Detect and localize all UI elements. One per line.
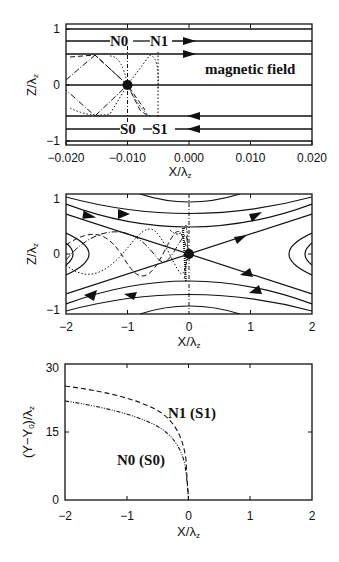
label-s1: S1 bbox=[152, 121, 168, 137]
x-tick-label: −1 bbox=[120, 509, 134, 523]
field-lines bbox=[66, 29, 312, 141]
label-s0: S0 bbox=[120, 121, 136, 137]
y-axis-label: Z/λz bbox=[24, 243, 40, 265]
x-tick-label: 0.010 bbox=[235, 151, 265, 165]
x-tick-labels: −0.020 −0.010 0.000 0.010 0.020 bbox=[47, 151, 327, 165]
x-tick-label: −0.020 bbox=[47, 151, 84, 165]
x-tick-label: 0 bbox=[185, 509, 192, 523]
x-tick-label: 0.020 bbox=[297, 151, 327, 165]
x-tick-labels: −2 −1 0 1 2 bbox=[59, 320, 316, 334]
x-tick-label: 0 bbox=[186, 320, 193, 334]
arrow-icon bbox=[118, 209, 130, 219]
y-tick-label: 0 bbox=[53, 247, 60, 261]
x-tick-label: −2 bbox=[59, 320, 73, 334]
arrow-left-icon bbox=[187, 125, 200, 133]
x-tick-label: 0.000 bbox=[174, 151, 204, 165]
y-tick-label: 0 bbox=[52, 493, 59, 507]
source-point-marker bbox=[123, 80, 133, 90]
x-axis-label: X/λz bbox=[169, 164, 192, 180]
label-n0: N0 bbox=[110, 33, 128, 49]
y-tick-label: −1 bbox=[46, 134, 60, 148]
arrow-icon bbox=[234, 235, 247, 244]
y-tick-label: 1 bbox=[53, 22, 60, 36]
figure-canvas: N0 N1 S0 S1 magnetic field −0.020 −0.010… bbox=[0, 0, 339, 562]
y-tick-label: −1 bbox=[46, 303, 60, 317]
x-tick-label: −1 bbox=[121, 320, 135, 334]
y-tick-label: 15 bbox=[46, 425, 60, 439]
x-tick-label: −2 bbox=[58, 509, 72, 523]
x-tick-label: 2 bbox=[309, 320, 316, 334]
arrow-right-icon bbox=[183, 50, 196, 58]
y-tick-label: 0 bbox=[53, 78, 60, 92]
x-tick-label: 2 bbox=[309, 509, 316, 523]
label-n0-s0: N0 (S0) bbox=[117, 452, 165, 469]
x-tick-label: 1 bbox=[247, 320, 254, 334]
label-n1: N1 bbox=[150, 33, 168, 49]
ticks bbox=[65, 364, 312, 500]
panel-top: N0 N1 S0 S1 magnetic field −0.020 −0.010… bbox=[24, 22, 327, 180]
y-tick-labels: 1 0 −1 bbox=[46, 22, 60, 148]
x-axis-label: X/λz bbox=[178, 334, 201, 350]
curve-n1-s1 bbox=[65, 386, 189, 500]
x-tick-label: −0.010 bbox=[109, 151, 146, 165]
field-arrows bbox=[82, 209, 262, 301]
x-axis-label: X/λz bbox=[177, 524, 200, 540]
y-tick-label: 1 bbox=[53, 192, 60, 206]
x-point-marker bbox=[184, 249, 194, 259]
arrow-left-icon bbox=[187, 112, 200, 120]
label-magnetic-field: magnetic field bbox=[205, 61, 296, 77]
arrow-icon bbox=[240, 268, 253, 277]
arrow-right-icon bbox=[183, 37, 196, 45]
x-tick-label: 1 bbox=[247, 509, 254, 523]
panel-middle: −2 −1 0 1 2 1 0 −1 X/λz Z/λz bbox=[24, 192, 316, 350]
y-tick-labels: 30 15 0 bbox=[46, 361, 60, 507]
y-tick-label: 30 bbox=[46, 361, 60, 375]
label-n1-s1: N1 (S1) bbox=[168, 405, 216, 422]
y-axis-label: (Y−Y0)/λz bbox=[20, 406, 36, 458]
panel-bottom: N1 (S1) N0 (S0) −2 −1 0 1 2 30 15 0 X/λz… bbox=[20, 361, 316, 540]
x-tick-labels: −2 −1 0 1 2 bbox=[58, 509, 316, 523]
y-axis-label: Z/λz bbox=[24, 74, 40, 96]
plot-frame bbox=[65, 364, 312, 500]
arrow-icon bbox=[82, 209, 97, 218]
arrow-icon bbox=[84, 290, 97, 301]
y-tick-labels: 1 0 −1 bbox=[46, 192, 60, 317]
